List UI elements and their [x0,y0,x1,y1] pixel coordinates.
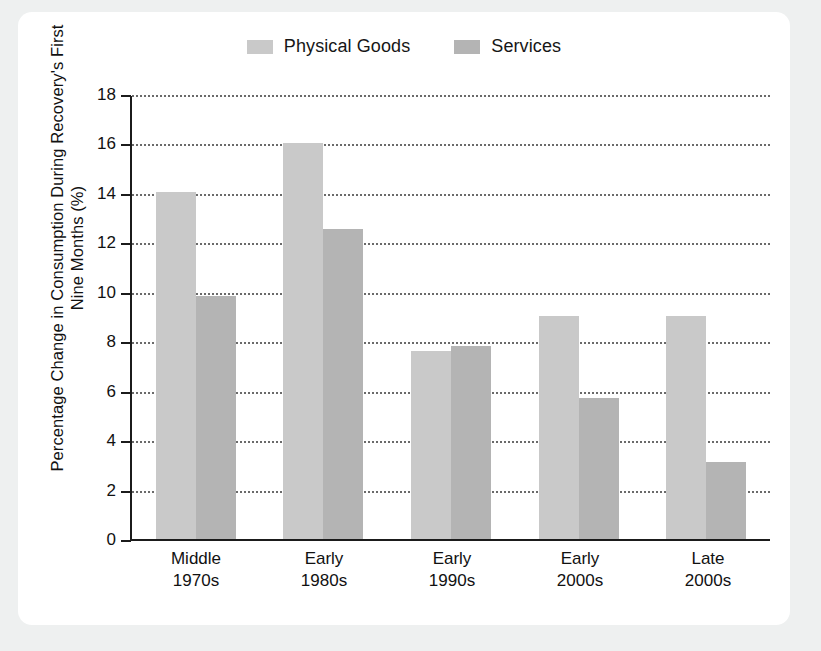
y-tick-mark [121,540,131,542]
bar-services [451,346,491,539]
legend-swatch-physical-goods [247,40,273,54]
bar-physical-goods [156,192,196,538]
y-tick-mark [121,243,131,245]
y-tick-label: 8 [76,332,116,352]
bar-services [196,296,236,538]
y-tick-mark [121,293,131,295]
bar-group [515,96,643,539]
y-tick-label: 6 [76,382,116,402]
y-tick-mark [121,144,131,146]
x-axis-label-line1: Early [305,549,344,568]
legend-label-physical-goods: Physical Goods [284,36,410,57]
bar-services [706,462,746,539]
bar-services [579,398,619,539]
x-axis-label-line2: 2000s [644,570,772,592]
bar-group [260,96,388,539]
x-axis-label-line2: 1970s [132,570,260,592]
x-axis-label-line2: 2000s [516,570,644,592]
x-axis-label-line1: Middle [171,549,221,568]
y-tick-label: 2 [76,481,116,501]
x-axis-label-line1: Late [691,549,724,568]
chart-card: Physical Goods Services Percentage Chang… [18,12,790,625]
y-tick-mark [121,441,131,443]
y-tick-label: 10 [76,283,116,303]
x-axis-label-line1: Early [433,549,472,568]
y-tick-mark [121,95,131,97]
bar-group [642,96,770,539]
y-tick-label: 0 [76,530,116,550]
bar-group [132,96,260,539]
legend-label-services: Services [491,36,561,57]
bar-physical-goods [283,143,323,539]
bar-group [387,96,515,539]
bar-physical-goods [539,316,579,539]
bar-physical-goods [411,351,451,539]
y-tick-label: 14 [76,184,116,204]
plot-area: 181614121086420 [130,96,770,541]
y-tick-mark [121,342,131,344]
x-axis-labels: Middle1970sEarly1980sEarly1990sEarly2000… [132,548,772,592]
y-tick-label: 4 [76,431,116,451]
y-tick-label: 12 [76,233,116,253]
x-axis-label: Late2000s [644,548,772,592]
x-axis-label: Early1980s [260,548,388,592]
legend-item-services: Services [454,36,561,57]
x-axis-label: Middle1970s [132,548,260,592]
bars-layer [132,96,770,539]
x-axis-line [130,539,770,542]
y-tick-label: 16 [76,134,116,154]
legend-swatch-services [454,40,480,54]
x-axis-label: Early2000s [516,548,644,592]
bar-services [323,229,363,538]
y-tick-mark [121,491,131,493]
y-tick-label: 18 [76,85,116,105]
y-tick-mark [121,194,131,196]
x-axis-label-line1: Early [561,549,600,568]
y-tick-mark [121,392,131,394]
x-axis-label-line2: 1980s [260,570,388,592]
legend-item-physical-goods: Physical Goods [247,36,410,57]
x-axis-label-line2: 1990s [388,570,516,592]
chart-legend: Physical Goods Services [18,36,790,57]
bar-physical-goods [666,316,706,539]
x-axis-label: Early1990s [388,548,516,592]
